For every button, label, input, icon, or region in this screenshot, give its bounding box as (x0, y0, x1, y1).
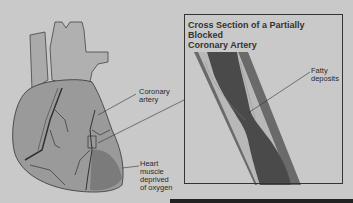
title-line-1: Cross Section of a Partially Blocked (188, 20, 338, 40)
title-line-2: Coronary Artery (188, 40, 338, 50)
label-line: artery (139, 96, 170, 104)
label-line: deposits (311, 75, 339, 83)
bottom-bar (170, 199, 353, 203)
figure-title: Cross Section of a Partially Blocked Cor… (188, 20, 338, 50)
heart-muscle-label: Heart muscle deprived of oxygen (140, 160, 173, 192)
coronary-artery-label: Coronary artery (139, 88, 170, 104)
label-line: of oxygen (140, 184, 173, 192)
fatty-deposits-label: Fatty deposits (311, 67, 339, 83)
heart-diagram: Cross Section of a Partially Blocked Cor… (0, 0, 353, 203)
